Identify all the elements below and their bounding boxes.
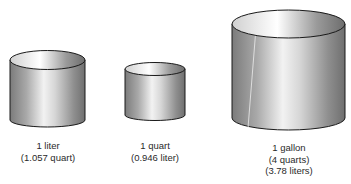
quart-label-line-2: (0.946 liter) <box>107 152 203 164</box>
liter-label-line-1: 1 liter <box>0 140 96 152</box>
quart-label: 1 quart (0.946 liter) <box>107 140 203 163</box>
liter-cylinder <box>10 51 85 128</box>
quart-label-line-1: 1 quart <box>107 140 203 152</box>
liter-label-line-2: (1.057 quart) <box>0 152 96 164</box>
gallon-label-line-3: (3.78 liters) <box>240 165 338 177</box>
gallon-cylinder <box>232 10 345 130</box>
gallon-label: 1 gallon (4 quarts) (3.78 liters) <box>240 142 338 177</box>
liter-label: 1 liter (1.057 quart) <box>0 140 96 163</box>
gallon-label-line-2: (4 quarts) <box>240 154 338 166</box>
quart-cylinder <box>125 63 185 121</box>
gallon-label-line-1: 1 gallon <box>240 142 338 154</box>
